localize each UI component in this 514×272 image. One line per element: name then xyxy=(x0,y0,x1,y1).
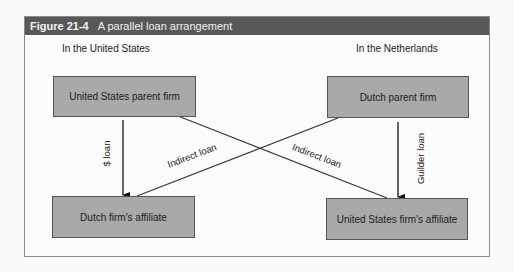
indirect-loan-line-right xyxy=(178,116,387,198)
guilder-loan-label: Guilder loan xyxy=(415,133,426,184)
dollar-loan-label: $ loan xyxy=(101,141,112,167)
box-dutch-parent-firm: Dutch parent firm xyxy=(327,76,469,118)
box-dutch-firm-affiliate: Dutch firm's affiliate xyxy=(52,196,195,238)
box-us-firm-affiliate: United States firm's affiliate xyxy=(326,198,468,240)
box-us-parent-firm: United States parent firm xyxy=(53,76,196,117)
